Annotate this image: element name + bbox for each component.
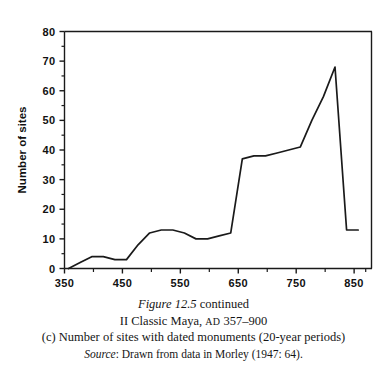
x-tick-label: 750 — [286, 277, 306, 289]
y-tick-label: 60 — [42, 85, 55, 97]
y-tick-label: 70 — [42, 55, 55, 67]
y-tick-label: 50 — [42, 114, 55, 126]
caption-subtitle-post: 357–900 — [220, 314, 267, 328]
figure-caption: Figure 12.5 continued II Classic Maya, A… — [0, 296, 387, 362]
y-tick-label: 0 — [49, 263, 56, 275]
line-chart-svg: 01020304050607080 350450550650750850 Num… — [0, 0, 387, 295]
caption-subtitle-pre: II Classic Maya, — [120, 314, 205, 328]
caption-description-line: (c) Number of sites with dated monuments… — [0, 329, 387, 346]
caption-subtitle-line: II Classic Maya, AD 357–900 — [0, 313, 387, 330]
data-series-line — [69, 67, 359, 268]
caption-figure-suffix: continued — [197, 297, 249, 311]
caption-source-line: Source: Drawn from data in Morley (1947:… — [0, 347, 387, 362]
y-tick-label: 40 — [42, 144, 55, 156]
x-tick-label: 450 — [113, 277, 133, 289]
y-tick-label: 30 — [42, 174, 55, 186]
caption-figure-line: Figure 12.5 continued — [0, 296, 387, 313]
y-axis-tick-labels: 01020304050607080 — [42, 26, 55, 275]
y-tick-label: 80 — [42, 26, 55, 38]
x-axis-tick-labels: 350450550650750850 — [55, 277, 364, 289]
y-axis-ticks — [60, 32, 65, 269]
chart-plot-area: 01020304050607080 350450550650750850 Num… — [0, 0, 387, 295]
x-tick-label: 650 — [228, 277, 248, 289]
x-tick-label: 850 — [344, 277, 364, 289]
x-tick-label: 550 — [171, 277, 191, 289]
y-tick-label: 20 — [42, 203, 55, 215]
caption-figure-label: Figure 12.5 — [138, 297, 197, 311]
x-axis-ticks — [65, 269, 366, 274]
caption-subtitle-era: AD — [205, 316, 220, 327]
figure-container: 01020304050607080 350450550650750850 Num… — [0, 0, 387, 371]
y-axis-title: Number of sites — [16, 107, 28, 194]
x-tick-label: 350 — [55, 277, 75, 289]
caption-source-text: : Drawn from data in Morley (1947: 64). — [116, 348, 303, 360]
caption-source-label: Source — [84, 348, 116, 360]
chart-axes — [65, 32, 373, 269]
y-tick-label: 10 — [42, 233, 55, 245]
